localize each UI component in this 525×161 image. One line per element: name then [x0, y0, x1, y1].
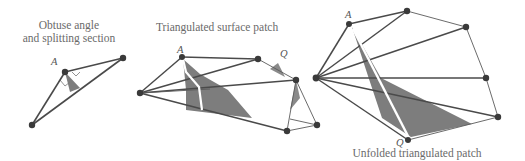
- vertex: [346, 21, 352, 27]
- label-point-q: Q: [280, 48, 288, 59]
- vertex: [284, 128, 290, 134]
- vertex: [293, 77, 299, 83]
- panel-triangulated-surface: [137, 54, 320, 134]
- vertex: [404, 8, 410, 14]
- vertex: [314, 122, 320, 128]
- caption-triangulated-surface: Triangulated surface patch: [156, 21, 276, 34]
- vertex: [313, 75, 320, 82]
- panel-unfolded-patch: [313, 8, 502, 143]
- label-point-a: A: [345, 9, 351, 20]
- caption-line-2: and splitting section: [14, 32, 124, 45]
- right-angle-mark: [72, 72, 80, 76]
- panel-obtuse-angle: [29, 55, 126, 128]
- caption-line-1: Obtuse angle: [14, 19, 124, 32]
- vertex: [495, 114, 501, 120]
- caption-unfolded-patch: Unfolded triangulated patch: [352, 147, 482, 160]
- vertex: [463, 24, 469, 30]
- caption-obtuse-angle: Obtuse angle and splitting section: [14, 19, 124, 45]
- vertex: [120, 55, 126, 61]
- label-point-a: A: [51, 56, 57, 67]
- vertex: [62, 69, 68, 75]
- vertex: [137, 90, 143, 96]
- unfolded-strip-shade: [352, 27, 472, 137]
- splitting-section-shade: [65, 72, 80, 92]
- vertex: [405, 137, 411, 143]
- vertex: [29, 122, 35, 128]
- vertex: [255, 56, 261, 62]
- label-point-q: Q: [396, 137, 404, 148]
- vertex: [483, 75, 489, 81]
- figure: Obtuse angle and splitting section Trian…: [0, 0, 525, 161]
- label-point-a: A: [177, 44, 183, 55]
